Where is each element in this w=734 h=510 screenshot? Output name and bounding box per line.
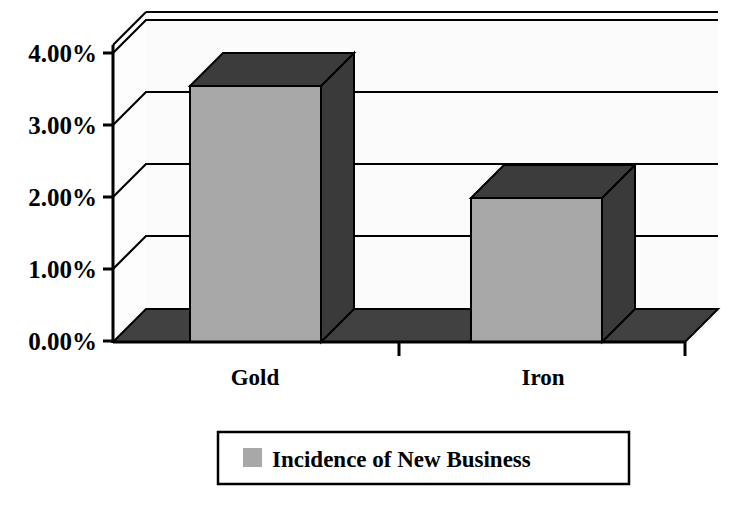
x-category-label-gold: Gold <box>231 365 280 390</box>
bar-iron[interactable] <box>471 165 635 342</box>
legend: Incidence of New Business <box>218 432 629 484</box>
y-tick-label-1: 1.00% <box>28 256 97 283</box>
y-tick-label-2: 2.00% <box>28 184 97 211</box>
y-tick-label-0: 0.00% <box>28 328 97 355</box>
column-chart-3d: 4.00% 3.00% 2.00% 1.00% 0.00% Gold Iron … <box>0 0 734 510</box>
chart-container: 4.00% 3.00% 2.00% 1.00% 0.00% Gold Iron … <box>0 0 734 510</box>
bar-gold-side-face <box>321 53 354 342</box>
bar-gold-front-face <box>190 86 321 342</box>
plot-left-wall <box>113 12 146 342</box>
x-category-label-iron: Iron <box>521 365 564 390</box>
bar-gold[interactable] <box>190 53 354 342</box>
legend-swatch-icon <box>243 448 262 467</box>
legend-entry-label: Incidence of New Business <box>272 447 531 472</box>
y-tick-label-3: 3.00% <box>28 112 97 139</box>
y-tick-label-4: 4.00% <box>28 40 97 67</box>
bar-iron-front-face <box>471 198 602 342</box>
